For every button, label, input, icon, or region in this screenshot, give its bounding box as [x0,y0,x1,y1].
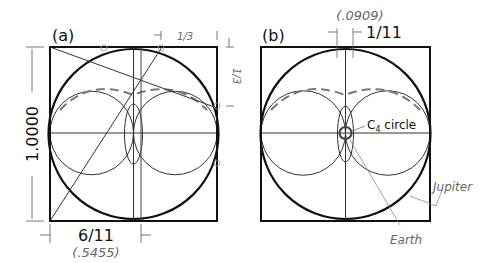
panel-a-bottom-fraction: 6/11 [78,226,114,245]
diagram-canvas: (a) 1.0000 [0,0,496,263]
earth-leader-line [350,140,400,225]
panel-b-left-arc [261,133,346,175]
panel-a-left-upper-arc [50,91,134,133]
panel-a-bottom-decimal: (.5455) [72,245,119,260]
panel-a: (a) 1.0000 [23,26,242,260]
panel-a-top-fraction: 1/3 [177,31,193,42]
panel-a-right-upper-arc [134,91,218,133]
earth-label: Earth [390,233,422,247]
panel-b: (b) 1/11 (.0909) C4 circle Jupiter Earth [261,8,474,247]
panel-b-left-upper-arc [261,91,346,133]
panel-b-top-decimal: (.0909) [336,8,383,23]
panel-a-left-arc [50,133,134,175]
panel-a-right-fraction: 1/3 [231,68,242,84]
c4-label: C4 circle [367,118,416,134]
panel-a-right-arc [134,133,218,175]
jupiter-label: Jupiter [431,180,473,194]
panel-a-steep-line [50,47,162,221]
panel-a-height-label: 1.0000 [23,106,42,162]
panel-b-top-fraction: 1/11 [366,23,402,42]
panel-b-label: (b) [262,26,285,45]
c4-leader-line [352,126,365,131]
panel-a-label: (a) [52,26,74,45]
